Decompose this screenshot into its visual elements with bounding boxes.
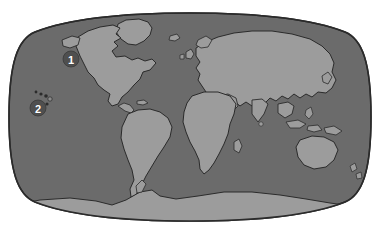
- map-marker-1[interactable]: 1: [63, 51, 79, 67]
- map-marker-2[interactable]: 2: [30, 100, 46, 116]
- map-marker-2-label: 2: [35, 103, 41, 115]
- world-map-canvas: 1 2: [0, 0, 380, 234]
- map-marker-1-label: 1: [68, 54, 74, 66]
- world-map-figure: 1 2: [0, 0, 380, 234]
- land-sri-lanka: [259, 122, 263, 126]
